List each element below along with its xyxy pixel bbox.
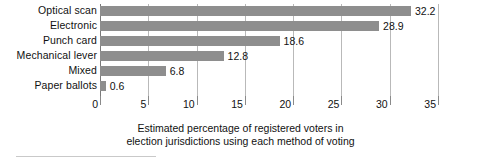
x-axis: 05101520253035 <box>100 96 438 112</box>
bar-value-label: 12.8 <box>228 51 248 61</box>
bar <box>100 81 106 91</box>
x-axis-caption: Estimated percentage of registered voter… <box>0 122 481 148</box>
category-label: Mixed <box>0 65 97 76</box>
x-tick-10 <box>197 96 198 105</box>
plot-area: 32.228.918.612.86.80.6 <box>100 4 438 96</box>
bar-chart: Optical scanElectronicPunch cardMechanic… <box>0 0 481 163</box>
caption-line-1: Estimated percentage of registered voter… <box>0 122 481 135</box>
bar <box>100 51 224 61</box>
category-label: Mechanical lever <box>0 50 97 61</box>
gridline-25 <box>341 4 342 96</box>
x-tick-20 <box>293 96 294 105</box>
category-label: Optical scan <box>0 5 97 16</box>
gridline-10 <box>197 4 198 96</box>
x-tick-15 <box>245 96 246 105</box>
gridline-30 <box>390 4 391 96</box>
bottom-divider <box>16 156 156 157</box>
x-tick-25 <box>341 96 342 105</box>
x-tick-label: 10 <box>183 99 197 110</box>
gridline-35 <box>438 4 439 96</box>
x-tick-label: 20 <box>279 99 293 110</box>
bar <box>100 36 280 46</box>
bar-value-label: 32.2 <box>415 6 435 16</box>
x-tick-label: 25 <box>328 99 342 110</box>
bar-value-label: 28.9 <box>383 21 403 31</box>
x-tick-30 <box>390 96 391 105</box>
bar-value-label: 18.6 <box>284 36 304 46</box>
gridline-5 <box>148 4 149 96</box>
x-tick-label: 0 <box>92 99 100 110</box>
x-tick-5 <box>148 96 149 105</box>
x-tick-35 <box>438 96 439 105</box>
bar-value-label: 6.8 <box>170 66 185 76</box>
x-tick-label: 35 <box>424 99 438 110</box>
category-label: Punch card <box>0 35 97 46</box>
x-tick-0 <box>100 96 101 105</box>
category-label: Paper ballots <box>0 80 97 91</box>
bar-value-label: 0.6 <box>110 81 125 91</box>
caption-line-2: election jurisdictions using each method… <box>0 135 481 148</box>
category-axis-labels: Optical scanElectronicPunch cardMechanic… <box>0 4 97 96</box>
bar <box>100 66 166 76</box>
bar <box>100 21 379 31</box>
bar <box>100 6 411 16</box>
x-tick-label: 15 <box>231 99 245 110</box>
gridline-20 <box>293 4 294 96</box>
category-label: Electronic <box>0 20 97 31</box>
x-tick-label: 30 <box>376 99 390 110</box>
x-tick-label: 5 <box>140 99 148 110</box>
